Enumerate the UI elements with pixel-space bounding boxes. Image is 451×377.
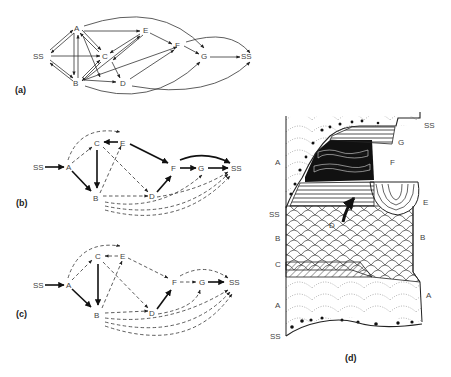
node-e: E (120, 252, 125, 261)
strata-label-left-a-lower: A (275, 301, 281, 310)
node-c: C (102, 52, 108, 61)
node-ss-end: SS (241, 52, 252, 61)
strata-label-d: D (329, 221, 335, 230)
node-f: F (175, 41, 180, 50)
node-e: E (120, 139, 125, 148)
node-ss-end: SS (229, 278, 240, 287)
node-c: C (95, 252, 101, 261)
panel-a-graph: SS A B C D E F G SS (a) (15, 17, 252, 95)
node-g: G (199, 278, 205, 287)
node-ss-start: SS (33, 281, 44, 290)
strata-label-right-ss: SS (424, 121, 435, 130)
node-g: G (198, 164, 204, 173)
panel-a-label: (a) (15, 85, 26, 95)
node-b: B (94, 311, 99, 320)
strata-label-e: E (423, 198, 428, 207)
node-ss-start: SS (33, 163, 44, 172)
node-d: D (149, 309, 155, 318)
node-ss-start: SS (33, 52, 44, 61)
strata-label-g: G (398, 138, 404, 147)
node-f: F (172, 278, 177, 287)
node-d: D (149, 192, 155, 201)
node-ss-end: SS (231, 164, 242, 173)
node-g: G (201, 52, 207, 61)
panel-c-graph: SS A B C D E F G SS (c) (16, 245, 240, 335)
panel-d-section: A SS B C A SS SS G F E B A D (d) (269, 112, 435, 363)
panel-d-label: (d) (345, 353, 357, 363)
strata-label-left-c: C (275, 260, 281, 269)
strata-label-right-a: A (426, 291, 432, 300)
strata-label-right-b: B (420, 233, 425, 242)
strata-label-left-a-upper: A (275, 158, 281, 167)
node-a: A (74, 24, 80, 33)
node-a: A (66, 281, 72, 290)
strata-label-left-ss: SS (269, 210, 280, 219)
node-e: E (143, 26, 148, 35)
node-f: F (171, 164, 176, 173)
node-b: B (93, 194, 98, 203)
node-c: C (94, 139, 100, 148)
node-a: A (66, 163, 72, 172)
succession-diagram-figure: SS A B C D E F G SS (a) SS A (0, 0, 451, 377)
strata-label-f: F (390, 158, 395, 167)
panel-c-label: (c) (16, 309, 27, 319)
panel-b-label: (b) (16, 198, 28, 208)
node-b: B (73, 79, 78, 88)
strata-label-left-ss-bottom: SS (270, 332, 281, 341)
strata-label-left-b: B (275, 234, 280, 243)
panel-b-graph: SS A B C D E F G SS (b) (16, 131, 242, 216)
node-d: D (120, 79, 126, 88)
